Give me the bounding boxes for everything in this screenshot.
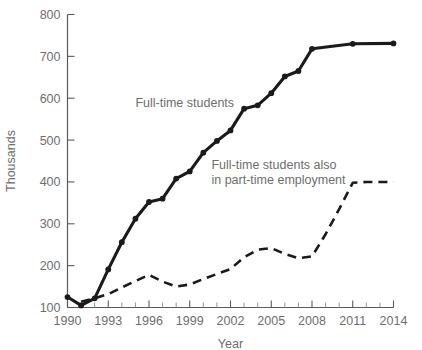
data-point-marker — [146, 199, 152, 205]
data-point-marker — [350, 41, 356, 47]
y-axis-tick-labels: 100200300400500600700800 — [40, 8, 61, 315]
y-tick-label-300: 300 — [40, 217, 61, 231]
annotation-line: Full-time students also — [211, 158, 336, 172]
x-axis-title: Year — [218, 337, 243, 350]
data-point-marker — [65, 294, 71, 300]
data-point-marker — [187, 169, 193, 175]
data-point-marker — [391, 40, 397, 46]
line-chart: 100200300400500600700800 199019931996199… — [0, 0, 422, 350]
y-tick-label-600: 600 — [40, 92, 61, 106]
series-annotations: Full-time studentsFull-time students als… — [135, 96, 346, 186]
x-tick-label-2002: 2002 — [217, 314, 245, 328]
annotation-full-time-students: Full-time students — [135, 96, 234, 110]
annotation-part-time-employment: Full-time students alsoin part-time empl… — [211, 158, 346, 187]
data-point-marker — [241, 106, 247, 112]
x-tick-label-1996: 1996 — [135, 314, 163, 328]
y-tick-label-500: 500 — [40, 134, 61, 148]
data-point-marker — [214, 138, 220, 144]
x-tick-label-1999: 1999 — [176, 314, 204, 328]
x-tick-label-2011: 2011 — [339, 314, 366, 328]
x-axis-ticks — [68, 301, 394, 308]
x-tick-label-1990: 1990 — [54, 314, 82, 328]
data-point-marker — [173, 176, 179, 182]
data-point-marker — [255, 102, 261, 108]
data-point-marker — [268, 90, 274, 96]
data-point-marker — [133, 216, 139, 222]
data-point-marker — [296, 68, 302, 74]
y-tick-label-700: 700 — [40, 50, 61, 64]
data-point-marker — [228, 128, 234, 134]
y-tick-label-800: 800 — [40, 8, 61, 22]
data-point-marker — [200, 150, 206, 156]
y-axis-ticks — [68, 15, 75, 308]
data-point-marker — [160, 196, 166, 202]
data-point-marker — [282, 74, 288, 80]
annotation-line: in part-time employment — [211, 173, 346, 187]
x-tick-label-2008: 2008 — [298, 314, 326, 328]
annotation-line: Full-time students — [135, 96, 234, 110]
data-point-marker — [78, 303, 84, 309]
y-axis-title: Thousands — [4, 130, 18, 192]
data-point-marker — [105, 267, 111, 273]
data-point-marker — [309, 46, 315, 52]
x-axis-tick-labels: 199019931996199920022005200820112014 — [54, 314, 408, 328]
data-point-marker — [119, 239, 125, 245]
y-tick-label-400: 400 — [40, 175, 61, 189]
x-tick-label-2005: 2005 — [257, 314, 285, 328]
x-tick-label-2014: 2014 — [380, 314, 408, 328]
series-line-part-time-employment — [81, 182, 393, 302]
y-tick-label-200: 200 — [40, 259, 61, 273]
chart-container: 100200300400500600700800 199019931996199… — [0, 0, 422, 350]
x-tick-label-1993: 1993 — [94, 314, 122, 328]
data-point-marker — [92, 295, 98, 301]
